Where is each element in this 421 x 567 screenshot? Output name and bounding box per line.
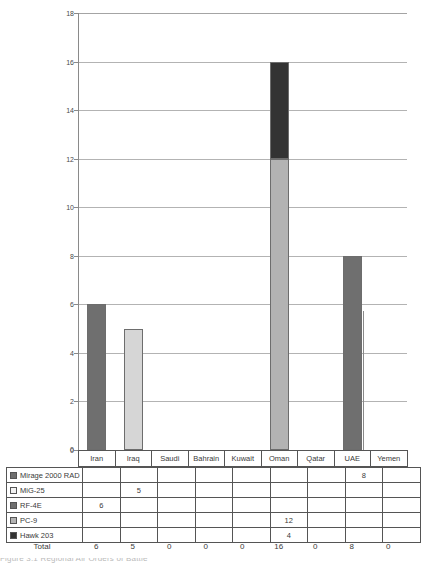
- legend-swatch-icon: [10, 532, 17, 539]
- cell-uae-r1: [345, 483, 383, 498]
- legend-item-pc-9: PC-9: [7, 513, 83, 528]
- bar-column-uae: [334, 13, 371, 450]
- total-uae: 8: [334, 542, 371, 551]
- legend-item-hawk-203: Hawk 203: [7, 528, 83, 543]
- cell-kuwait-r0: [233, 468, 271, 483]
- cell-iran-r4: [83, 528, 121, 543]
- caption-sliver-text: Figure 3.1 Regional Air Orders of Battle: [0, 558, 420, 563]
- cell-iraq-r2: [120, 498, 158, 513]
- x-axis-category-labels: IranIraqSaudiBahrainKuwaitOmanQatarUAEYe…: [78, 450, 408, 467]
- bar-column-bahrain: [188, 13, 225, 450]
- totals-row: Total 6500016080: [6, 542, 408, 551]
- cell-qatar-r0: [308, 468, 346, 483]
- bar-chart: 181614121086420 0 IranIraqSaudiBahrainKu…: [0, 0, 420, 462]
- total-iran: 6: [78, 542, 115, 551]
- x-label-qatar: Qatar: [297, 451, 334, 466]
- cell-iraq-r3: [120, 513, 158, 528]
- table-row: RF-4E6: [7, 498, 421, 513]
- cell-oman-r1: [270, 483, 308, 498]
- bar-column-qatar: [297, 13, 334, 450]
- legend-swatch-icon: [10, 517, 17, 524]
- legend-swatch-icon: [10, 487, 17, 494]
- y-axis-tick-18: 18: [52, 10, 74, 17]
- cell-yemen-r3: [383, 513, 421, 528]
- bar-segment-oman-pc-9: [270, 159, 289, 450]
- cell-iran-r0: [83, 468, 121, 483]
- bar-column-kuwait: [224, 13, 261, 450]
- cell-kuwait-r3: [233, 513, 271, 528]
- legend-item-mig-25: MiG-25: [7, 483, 83, 498]
- cell-iraq-r1: 5: [120, 483, 158, 498]
- cell-kuwait-r1: [233, 483, 271, 498]
- x-label-kuwait: Kuwait: [224, 451, 261, 466]
- cell-saudi-r2: [158, 498, 196, 513]
- total-kuwait: 0: [224, 542, 261, 551]
- y-axis-tick-12: 12: [52, 155, 74, 162]
- cell-qatar-r2: [308, 498, 346, 513]
- y-axis-tick-14: 14: [52, 107, 74, 114]
- cell-oman-r3: 12: [270, 513, 308, 528]
- cell-uae-r0: 8: [345, 468, 383, 483]
- bar-column-saudi: [151, 13, 188, 450]
- cell-uae-r2: [345, 498, 383, 513]
- cell-iraq-r4: [120, 528, 158, 543]
- bar-segment-oman-hawk-203: [270, 62, 289, 159]
- cell-yemen-r0: [383, 468, 421, 483]
- cell-bahrain-r4: [195, 528, 233, 543]
- y-axis-tick-2: 2: [52, 398, 74, 405]
- cell-bahrain-r2: [195, 498, 233, 513]
- cell-oman-r0: [270, 468, 308, 483]
- x-label-yemen: Yemen: [370, 451, 407, 466]
- cell-bahrain-r1: [195, 483, 233, 498]
- cell-saudi-r3: [158, 513, 196, 528]
- total-yemen: 0: [370, 542, 407, 551]
- legend-swatch-icon: [10, 502, 17, 509]
- y-axis-tick-10: 10: [52, 204, 74, 211]
- legend-label: Mirage 2000 RAD: [20, 471, 80, 480]
- y-axis-tick-8: 8: [52, 252, 74, 259]
- cell-yemen-r4: [383, 528, 421, 543]
- cell-qatar-r4: [308, 528, 346, 543]
- cell-iran-r2: 6: [83, 498, 121, 513]
- y-axis-tick-6: 6: [52, 301, 74, 308]
- x-label-uae: UAE: [334, 451, 371, 466]
- cell-saudi-r1: [158, 483, 196, 498]
- legend-label: Hawk 203: [20, 531, 53, 540]
- cell-kuwait-r4: [233, 528, 271, 543]
- x-label-saudi: Saudi: [151, 451, 188, 466]
- cell-yemen-r1: [383, 483, 421, 498]
- total-qatar: 0: [297, 542, 334, 551]
- total-saudi: 0: [151, 542, 188, 551]
- table-row: MiG-255: [7, 483, 421, 498]
- legend-swatch-icon: [10, 472, 17, 479]
- total-oman: 16: [261, 542, 298, 551]
- cell-qatar-r1: [308, 483, 346, 498]
- y-axis-tick-4: 4: [52, 349, 74, 356]
- total-iraq: 5: [115, 542, 152, 551]
- cell-bahrain-r3: [195, 513, 233, 528]
- cell-uae-r4: [345, 528, 383, 543]
- y-axis-tick-16: 16: [52, 58, 74, 65]
- cell-uae-r3: [345, 513, 383, 528]
- legend-item-rf-4e: RF-4E: [7, 498, 83, 513]
- x-label-iraq: Iraq: [115, 451, 152, 466]
- legend-label: PC-9: [20, 516, 37, 525]
- cell-kuwait-r2: [233, 498, 271, 513]
- total-bahrain: 0: [188, 542, 225, 551]
- cell-bahrain-r0: [195, 468, 233, 483]
- legend-label: RF-4E: [20, 501, 42, 510]
- table-row: Mirage 2000 RAD8: [7, 468, 421, 483]
- totals-label: Total: [6, 542, 78, 551]
- cell-iran-r1: [83, 483, 121, 498]
- legend-item-mirage-2000-rad: Mirage 2000 RAD: [7, 468, 83, 483]
- cell-iraq-r0: [120, 468, 158, 483]
- bar-column-yemen: [370, 13, 407, 450]
- cell-oman-r4: 4: [270, 528, 308, 543]
- bar-segment-iraq-mig-25: [124, 329, 143, 450]
- cell-qatar-r3: [308, 513, 346, 528]
- y-axis-tick-labels: 181614121086420: [50, 0, 74, 462]
- cell-yemen-r2: [383, 498, 421, 513]
- bar-segment-uae-mirage-2000-rad: [343, 256, 362, 450]
- x-label-iran: Iran: [78, 451, 115, 466]
- bar-segment-iran-rf-4e: [87, 304, 106, 450]
